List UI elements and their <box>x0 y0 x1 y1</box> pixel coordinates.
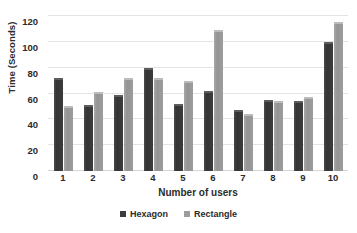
bar-body <box>294 103 303 171</box>
bar-group <box>234 16 253 171</box>
bar-body <box>324 44 333 171</box>
bar-body <box>304 99 313 171</box>
x-tick-label: 5 <box>180 172 185 183</box>
legend-label: Hexagon <box>130 209 168 219</box>
bar-rectangle-2 <box>94 92 103 171</box>
bar-hexagon-6 <box>204 91 213 171</box>
bar-hexagon-9 <box>294 101 303 171</box>
bar-hexagon-2 <box>84 105 93 171</box>
bar-group <box>324 16 343 171</box>
bar-group <box>174 16 193 171</box>
bar-hexagon-8 <box>264 100 273 171</box>
legend-item-hexagon[interactable]: Hexagon <box>120 209 168 219</box>
bar-group <box>114 16 133 171</box>
plot-area <box>48 16 348 171</box>
bar-rectangle-5 <box>184 81 193 171</box>
bar-body <box>124 80 133 171</box>
bar-rectangle-4 <box>154 78 163 171</box>
bar-rectangle-10 <box>334 22 343 171</box>
bar-body <box>244 116 253 171</box>
x-tick-label: 2 <box>90 172 95 183</box>
bar-group <box>84 16 103 171</box>
legend-item-rectangle[interactable]: Rectangle <box>184 209 237 219</box>
bar-hexagon-7 <box>234 110 243 171</box>
bar-group <box>204 16 223 171</box>
x-tick-label: 8 <box>270 172 275 183</box>
x-axis-tick-labels: 12345678910 <box>48 172 348 186</box>
bar-body <box>234 112 243 171</box>
bar-body <box>64 108 73 171</box>
x-axis-title: Number of users <box>48 187 348 198</box>
bar-group <box>54 16 73 171</box>
bar-rectangle-8 <box>274 101 283 171</box>
x-tick-label: 9 <box>300 172 305 183</box>
bar-rectangle-7 <box>244 114 253 171</box>
bar-rectangle-6 <box>214 30 223 171</box>
bar-rectangle-1 <box>64 106 73 171</box>
bar-group <box>294 16 313 171</box>
x-tick-label: 3 <box>120 172 125 183</box>
bar-body <box>144 70 153 171</box>
chart-legend: HexagonRectangle <box>0 209 357 219</box>
bar-body <box>334 24 343 171</box>
bar-body <box>114 97 123 171</box>
x-tick-label: 4 <box>150 172 155 183</box>
bar-hexagon-1 <box>54 78 63 171</box>
legend-swatch-icon <box>184 211 190 217</box>
x-tick-label: 7 <box>240 172 245 183</box>
bar-body <box>54 80 63 171</box>
bar-group <box>264 16 283 171</box>
bar-body <box>174 106 183 171</box>
bar-group <box>144 16 163 171</box>
bar-body <box>274 103 283 171</box>
bar-body <box>94 94 103 171</box>
chart-figure: Time (Seconds) 020406080100120 123456789… <box>0 0 357 233</box>
bar-hexagon-5 <box>174 104 183 171</box>
bar-rectangle-9 <box>304 97 313 171</box>
bar-rectangle-3 <box>124 78 133 171</box>
bar-groups <box>48 16 348 171</box>
bar-hexagon-10 <box>324 42 333 171</box>
x-tick-label: 10 <box>328 172 339 183</box>
legend-swatch-icon <box>120 211 126 217</box>
bar-body <box>84 107 93 171</box>
legend-label: Rectangle <box>194 209 237 219</box>
y-axis-tick-labels: 020406080100120 <box>0 16 42 171</box>
bar-hexagon-3 <box>114 95 123 171</box>
bar-body <box>204 93 213 171</box>
x-tick-label: 1 <box>60 172 65 183</box>
bar-body <box>184 83 193 171</box>
bar-body <box>154 80 163 171</box>
bar-body <box>264 102 273 171</box>
bar-hexagon-4 <box>144 68 153 171</box>
x-tick-label: 6 <box>210 172 215 183</box>
bar-body <box>214 32 223 171</box>
